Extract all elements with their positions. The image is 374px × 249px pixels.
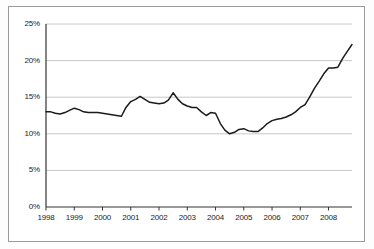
- y-axis-tick-label: 15%: [12, 92, 40, 101]
- x-axis-tick-label: 2001: [115, 213, 147, 222]
- y-axis-tick-label: 5%: [12, 165, 40, 174]
- x-axis-tick-label: 2002: [143, 213, 175, 222]
- y-axis-tick-label: 25%: [12, 19, 40, 28]
- y-axis-tick-label: 0%: [12, 202, 40, 211]
- y-axis-tick-label: 20%: [12, 56, 40, 65]
- x-axis-tick-label: 1998: [30, 213, 62, 222]
- gridlines-group: [46, 24, 352, 207]
- x-axis-tick-label: 2004: [200, 213, 232, 222]
- x-axis-tick-label: 2008: [313, 213, 345, 222]
- y-axis-tick-label: 10%: [12, 129, 40, 138]
- x-axis-tick-label: 2005: [228, 213, 260, 222]
- x-axis-tick-label: 2006: [256, 213, 288, 222]
- x-axis-tick-label: 1999: [58, 213, 90, 222]
- data-series-line: [46, 45, 352, 134]
- chart-figure: 0%5%10%15%20%25% 19981999200020012002200…: [0, 0, 374, 249]
- x-axis-tick-label: 2000: [87, 213, 119, 222]
- line-chart-plot: [0, 0, 374, 249]
- x-axis-tick-label: 2007: [284, 213, 316, 222]
- x-axis-tick-label: 2003: [171, 213, 203, 222]
